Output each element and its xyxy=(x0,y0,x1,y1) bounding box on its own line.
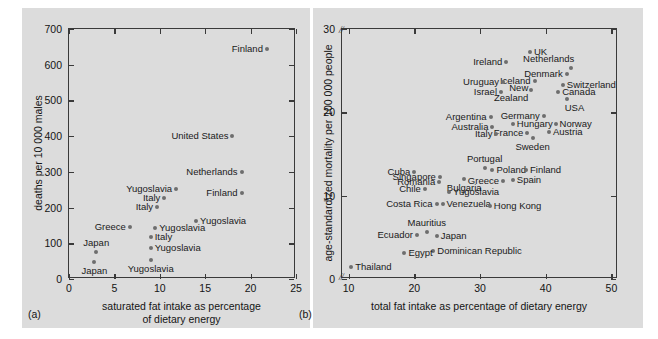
y-tick-label: 500 xyxy=(44,94,62,106)
data-point xyxy=(504,60,508,64)
plot-area-a: 01002003004005006007000510152025FinlandU… xyxy=(68,28,295,278)
data-point-label: Canada xyxy=(562,87,595,97)
x-tick-mark xyxy=(160,274,161,279)
y-tick-mark xyxy=(69,136,74,137)
data-point xyxy=(425,230,429,234)
panel-label-a: (a) xyxy=(28,308,41,320)
axis-break-bottom-icon: // xyxy=(338,270,344,282)
x-axis-title-b: total fat intake as percentage of dietar… xyxy=(341,300,617,313)
data-point xyxy=(92,260,96,264)
data-point xyxy=(447,190,451,194)
data-point-label: Costa Rica xyxy=(386,199,432,209)
data-point xyxy=(488,204,492,208)
data-point-label: Dominican Republic xyxy=(437,246,521,256)
data-point xyxy=(511,178,515,182)
y-axis-title-b: age-standardized mortality per 100 000 p… xyxy=(322,28,334,278)
data-point xyxy=(489,115,493,119)
data-point-label: Ecuador xyxy=(378,230,413,240)
data-point-label: Japan xyxy=(83,238,109,248)
data-point xyxy=(402,251,406,255)
data-point-label: Egypt xyxy=(408,248,432,258)
data-point xyxy=(462,177,466,181)
data-point-label: Finland xyxy=(232,44,263,54)
data-point xyxy=(162,196,166,200)
data-point xyxy=(174,187,178,191)
data-point xyxy=(435,234,439,238)
data-point-label: Portugal xyxy=(467,154,502,164)
data-point xyxy=(155,205,159,209)
data-point xyxy=(565,97,569,101)
data-point-label: Japan xyxy=(81,266,107,276)
x-axis-title-a: saturated fat intake as percentage of di… xyxy=(68,300,295,326)
x-tick-label: 25 xyxy=(290,282,302,294)
data-point xyxy=(415,233,419,237)
y-tick-mark-right xyxy=(289,100,294,101)
x-tick-mark xyxy=(611,274,612,279)
x-tick-mark-top xyxy=(160,29,161,34)
x-tick-label: 10 xyxy=(343,282,355,294)
x-tick-mark-top xyxy=(69,29,70,34)
y-tick-label: 400 xyxy=(44,130,62,142)
y-tick-label: 100 xyxy=(44,237,62,249)
y-tick-mark-right xyxy=(611,279,616,280)
data-point xyxy=(529,88,533,92)
data-point-label: Netherlands xyxy=(523,54,574,64)
y-tick-mark-right xyxy=(289,136,294,137)
y-tick-mark xyxy=(69,65,74,66)
y-tick-mark-right xyxy=(289,243,294,244)
x-tick-label: 30 xyxy=(474,282,486,294)
x-tick-mark xyxy=(480,274,481,279)
x-tick-mark-top xyxy=(251,29,252,34)
data-point-label: Italy xyxy=(155,232,172,242)
data-point-label: Yugoslavia xyxy=(200,216,246,226)
x-tick-label: 20 xyxy=(408,282,420,294)
x-tick-label: 15 xyxy=(199,282,211,294)
data-point-label: Japan xyxy=(441,231,467,241)
data-point xyxy=(525,131,529,135)
data-point xyxy=(556,90,560,94)
x-tick-label: 40 xyxy=(540,282,552,294)
panel-a: 01002003004005006007000510152025FinlandU… xyxy=(22,8,310,328)
x-tick-label: 0 xyxy=(66,282,72,294)
data-point-label: Austria xyxy=(553,127,583,137)
x-tick-label: 20 xyxy=(245,282,257,294)
data-point-label: Greece xyxy=(95,222,126,232)
y-tick-mark-right xyxy=(611,196,616,197)
y-tick-mark xyxy=(69,100,74,101)
y-tick-label: 0 xyxy=(56,273,62,285)
y-tick-label: 300 xyxy=(44,166,62,178)
data-point xyxy=(153,226,157,230)
x-tick-mark-top xyxy=(546,29,547,34)
data-point xyxy=(569,66,573,70)
x-tick-mark xyxy=(205,274,206,279)
data-point xyxy=(437,180,441,184)
data-point xyxy=(349,265,353,269)
x-tick-mark xyxy=(414,274,415,279)
data-point-label: Spain xyxy=(517,175,541,185)
data-point xyxy=(149,258,153,262)
y-tick-mark xyxy=(342,196,347,197)
data-point-label: Italy xyxy=(136,202,153,212)
data-point-label: Netherlands xyxy=(186,167,237,177)
x-tick-mark xyxy=(349,274,350,279)
x-tick-label: 50 xyxy=(606,282,618,294)
data-point xyxy=(511,122,515,126)
x-tick-mark-top xyxy=(480,29,481,34)
y-tick-mark-right xyxy=(289,65,294,66)
data-point-label: Israel xyxy=(474,87,497,97)
data-point xyxy=(149,246,153,250)
data-point xyxy=(499,90,503,94)
data-point-label: United States xyxy=(171,131,228,141)
x-tick-mark xyxy=(296,274,297,279)
data-point-label: Venezuela xyxy=(447,199,491,209)
data-point xyxy=(128,225,132,229)
data-point-label: Ireland xyxy=(473,57,502,67)
y-tick-mark xyxy=(69,243,74,244)
y-tick-mark xyxy=(342,112,347,113)
data-point xyxy=(265,47,269,51)
data-point xyxy=(547,130,551,134)
data-point-label: USA xyxy=(565,103,585,113)
data-point-label: Yugoslavia xyxy=(453,187,499,197)
y-tick-label: 600 xyxy=(44,59,62,71)
data-point xyxy=(490,168,494,172)
